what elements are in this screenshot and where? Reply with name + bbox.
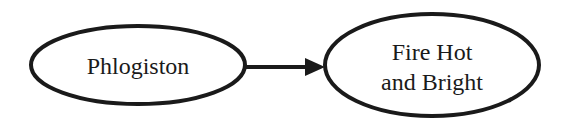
fire-ellipse [325, 14, 539, 116]
node-phlogiston: Phlogiston [31, 26, 245, 104]
fire-label-line1: Fire Hot [392, 39, 473, 65]
edge-phlogiston-to-fire [246, 58, 325, 76]
arrowhead-icon [305, 58, 325, 76]
phlogiston-label: Phlogiston [87, 53, 190, 79]
causal-diagram: Phlogiston Fire Hot and Bright [0, 0, 565, 126]
node-fire: Fire Hot and Bright [325, 14, 539, 116]
fire-label-line2: and Bright [381, 69, 483, 95]
